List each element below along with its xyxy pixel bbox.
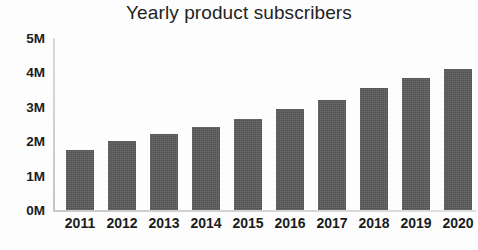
y-tick-label: 1M <box>0 168 45 183</box>
y-tick-label: 5M <box>0 31 45 46</box>
x-axis-line <box>53 210 476 212</box>
x-tick-label: 2013 <box>148 215 179 231</box>
bar-2013[interactable] <box>150 38 178 210</box>
x-tick-label: 2015 <box>232 215 263 231</box>
x-tick-label: 2018 <box>358 215 389 231</box>
bar-rect <box>150 134 178 210</box>
bar-2015[interactable] <box>234 38 262 210</box>
bar-2011[interactable] <box>66 38 94 210</box>
bar-2016[interactable] <box>276 38 304 210</box>
x-tick-label: 2020 <box>442 215 473 231</box>
bar-rect <box>444 69 472 210</box>
x-tick-label: 2017 <box>316 215 347 231</box>
bar-2017[interactable] <box>318 38 346 210</box>
bar-rect <box>360 88 388 210</box>
x-tick-label: 2011 <box>65 215 95 231</box>
x-tick-label: 2019 <box>400 215 431 231</box>
y-tick-label: 2M <box>0 134 45 149</box>
y-tick-label: 3M <box>0 99 45 114</box>
y-tick-label: 0M <box>0 203 45 218</box>
y-tick-label: 4M <box>0 65 45 80</box>
x-tick-label: 2014 <box>190 215 221 231</box>
bar-rect <box>66 150 94 210</box>
bar-rect <box>192 127 220 210</box>
bar-2019[interactable] <box>402 38 430 210</box>
bar-rect <box>234 119 262 210</box>
chart-title: Yearly product subscribers <box>0 2 478 24</box>
bar-2012[interactable] <box>108 38 136 210</box>
y-axis-line <box>53 38 55 210</box>
bar-rect <box>318 100 346 210</box>
x-axis-tick-labels: 2011201220132014201520162017201820192020 <box>53 215 478 241</box>
bar-2020[interactable] <box>444 38 472 210</box>
bar-rect <box>276 109 304 210</box>
plot-area <box>53 38 473 210</box>
bar-rect <box>108 141 136 210</box>
bar-2014[interactable] <box>192 38 220 210</box>
x-tick-label: 2016 <box>274 215 305 231</box>
x-tick-label: 2012 <box>106 215 137 231</box>
bar-rect <box>402 78 430 210</box>
bar-chart-figure: Yearly product subscribers 0M1M2M3M4M5M … <box>0 0 478 250</box>
bar-2018[interactable] <box>360 38 388 210</box>
